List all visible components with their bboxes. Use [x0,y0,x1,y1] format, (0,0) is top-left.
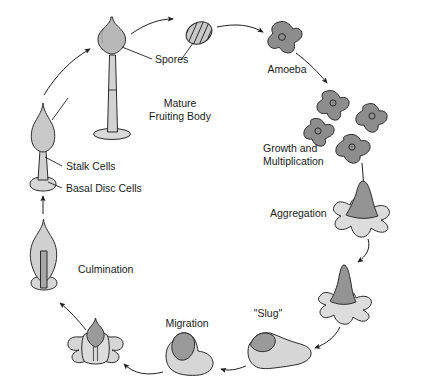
arrow-fruitingbody-to-spores [131,19,173,34]
arrow-slug-to-migration [221,366,246,370]
slug-anterior-tip [251,333,276,352]
growth-amoeba-1 [317,90,349,120]
label-culmination: Culmination [78,263,134,275]
label-aggregation: Aggregation [270,207,327,219]
stage-amoeba: Amoeba [267,21,306,75]
labeled-stalk [38,150,48,180]
stage-early-fruiting-body [30,219,57,290]
sorus-leader-line [52,98,68,120]
stage-culmination: Culmination [68,263,134,364]
fruiting-body-to-spores-leader [122,47,152,59]
stage-spores: Spores [122,14,216,65]
labeled-sorus-mass [31,103,54,152]
label-spores: Spores [155,53,188,65]
arrow-aggregation-to-tippedmound [358,239,369,262]
label-basal-disc-cells: Basal Disc Cells [66,182,142,194]
arrow-tippedmound-to-slug [315,327,340,348]
arrow-migration-to-culmination [124,364,163,374]
label-amoeba: Amoeba [267,63,306,75]
arrow-spores-to-amoeba [217,25,263,32]
stage-growth-multiplication: Growth and Multiplication [263,90,387,167]
stalk-cells-leader-line [45,157,62,166]
amoeba-nucleus [279,34,286,41]
growth-amoeba-2 [356,103,387,132]
stage-tipped-mound [318,265,371,324]
stage-aggregation: Aggregation [270,181,389,237]
label-stalk-cells: Stalk Cells [66,160,116,172]
label-growth-line2: Multiplication [263,155,324,167]
label-slug: "Slug" [254,307,283,319]
stage-labeled-fruiting-body: Stalk Cells Basal Disc Cells [30,98,142,194]
stage-mature-fruiting-body [94,17,131,140]
label-mature-fruiting-body-line2: Fruiting Body [149,110,212,122]
stage-slug: "Slug" [248,307,311,369]
arrow-culmination-to-earlyfruitingbody [60,303,86,330]
growth-amoeba-4 [336,134,370,163]
label-migration: Migration [165,317,208,329]
label-mature-fruiting-body-line1: Mature [164,97,197,109]
early-fruiting-internal-stalk [41,251,48,288]
arrow-labeledfruiting-to-maturefruiting [44,49,90,95]
culmination-prespore-bulb [87,318,104,347]
tipped-mound-tip [330,265,356,304]
fruiting-body-stalk [108,55,118,132]
label-growth-line1: Growth and [263,142,317,154]
aggregation-mound [346,181,378,218]
cycle-diagram-canvas: Mature Fruiting Body Spores [0,0,421,390]
life-cycle-diagram: Mature Fruiting Body Spores [0,0,421,390]
stage-migration: Migration [165,317,213,375]
